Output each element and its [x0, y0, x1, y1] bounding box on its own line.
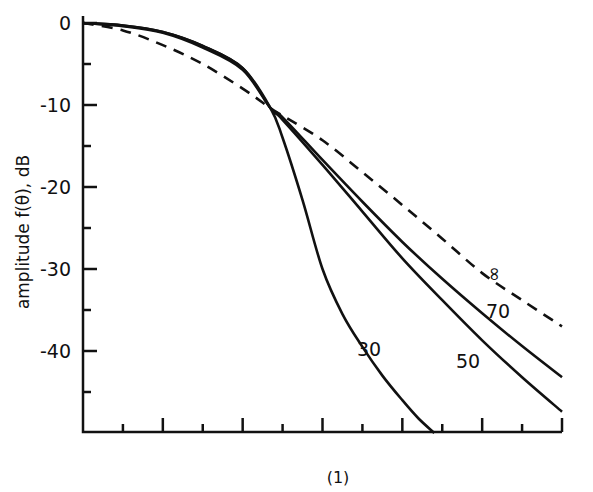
- y-tick-label: -20: [40, 176, 71, 198]
- curve-label-30: 30: [357, 338, 381, 360]
- curve-label-infinity: ∞: [482, 266, 504, 282]
- curves: [83, 23, 562, 433]
- curve-label-70: 70: [486, 300, 510, 322]
- figure-caption: (1): [327, 468, 350, 487]
- curve-labels: ∞705030: [357, 266, 510, 372]
- y-tick-label: 0: [59, 12, 71, 34]
- y-axis-label: amplitude f(θ), dB: [13, 155, 33, 309]
- axes: [83, 16, 562, 432]
- y-tick-label: -40: [40, 340, 71, 362]
- curve-50: [83, 23, 562, 412]
- curve-70: [83, 23, 562, 377]
- y-tick-labels: 0-10-20-30-40: [40, 12, 71, 362]
- axis-lines: [83, 16, 562, 432]
- chart: 0-10-20-30-40 ∞705030 amplitude f(θ), dB…: [0, 0, 593, 492]
- y-tick-label: -10: [40, 94, 71, 116]
- axis-ticks: [83, 23, 562, 432]
- curve-label-50: 50: [456, 350, 480, 372]
- curve-30: [83, 23, 434, 433]
- y-tick-label: -30: [40, 258, 71, 280]
